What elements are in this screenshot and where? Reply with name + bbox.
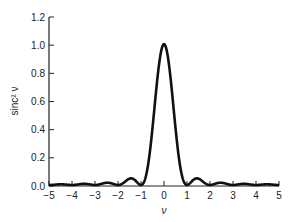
x-tick-label: 5 [276,190,282,201]
axes [49,17,279,186]
x-tick-label: 1 [184,190,190,201]
sinc-squared-curve [49,44,279,185]
x-tick-label: 2 [207,190,213,201]
x-tick-label: −1 [135,190,147,201]
y-tick-label: 0.6 [31,96,45,107]
x-tick-label: 4 [253,190,259,201]
y-axis-label: sinc² ν [9,87,20,116]
y-tick-label: 0.2 [31,152,45,163]
x-tick-label: 0 [161,190,167,201]
x-tick-label: −4 [66,190,78,201]
y-tick-label: 1.0 [31,40,45,51]
x-tick-label: −2 [112,190,124,201]
x-tick-label: −3 [89,190,101,201]
y-tick-label: 1.2 [31,12,45,23]
x-tick-label: −5 [43,190,55,201]
x-tick-label: 3 [230,190,236,201]
y-axis-ticks: 0.00.20.40.60.81.01.2 [31,12,54,192]
x-axis-label: ν [162,205,167,216]
y-tick-label: 0.8 [31,68,45,79]
y-tick-label: 0.4 [31,124,45,135]
plot-canvas: 0.00.20.40.60.81.01.2 −5−4−3−2−1012345 s… [0,0,295,222]
sinc-squared-chart: 0.00.20.40.60.81.01.2 −5−4−3−2−1012345 s… [0,0,295,222]
